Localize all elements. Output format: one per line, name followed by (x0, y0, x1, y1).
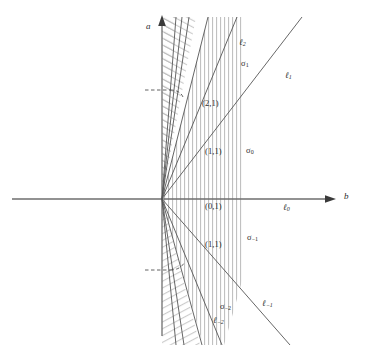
sector-label-sigma-1: σ1 (241, 59, 249, 68)
fan-diagram (0, 0, 365, 351)
line-label-ell-2: ℓ2 (239, 38, 246, 47)
sector-label-sigma-0: σ0 (246, 146, 254, 155)
line-label-ell-minus-1: ℓ−1 (262, 299, 273, 308)
point-label-0-1: (0,1) (205, 202, 222, 211)
line-label-ell-minus-2: ℓ−2 (213, 316, 224, 325)
sector-label-sigma-minus-1: σ−1 (247, 233, 258, 242)
line-label-ell-1: ℓ1 (285, 71, 292, 80)
axis-label-a: a (146, 22, 151, 31)
sector-label-sigma-minus-2: σ−2 (220, 302, 231, 311)
point-label-2-1: (2,1) (202, 99, 219, 108)
axis-label-b: b (344, 192, 349, 201)
line-label-ell-0: ℓ0 (283, 203, 290, 212)
point-label-1-1-lower: (1,1) (205, 240, 222, 249)
point-label-1-1-upper: (1,1) (205, 147, 222, 156)
